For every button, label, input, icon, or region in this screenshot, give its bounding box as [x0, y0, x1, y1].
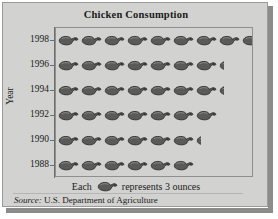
source-label: Source:: [14, 195, 42, 205]
frame-shadow-right: [268, 6, 273, 211]
source-text: U.S. Department of Agriculture: [44, 195, 158, 205]
pictograph-row: [57, 104, 218, 128]
pictograph-row: [57, 129, 202, 153]
chicken-icon: [103, 33, 125, 48]
y-axis-tick-label: 1992: [7, 109, 49, 119]
chicken-icon: [149, 58, 171, 73]
chicken-icon: [57, 33, 79, 48]
legend-prefix: Each: [72, 181, 92, 192]
pictograph-row: [57, 79, 225, 103]
chicken-icon: [218, 58, 224, 73]
y-axis-tick-label: 1990: [7, 134, 49, 144]
chicken-icon: [149, 133, 171, 148]
chicken-icon: [103, 133, 125, 148]
plot-area: [55, 27, 253, 177]
chicken-icon: [172, 158, 194, 173]
chicken-icon: [172, 108, 194, 123]
chicken-icon: [103, 58, 125, 73]
chicken-icon: [80, 158, 102, 173]
chart-frame: Chicken Consumption Year 199819961994199…: [2, 2, 268, 207]
chicken-icon: [57, 133, 79, 148]
chicken-icon: [149, 158, 171, 173]
chicken-icon: [172, 133, 194, 148]
y-axis-tick-label: 1996: [7, 59, 49, 69]
chicken-icon: [80, 33, 102, 48]
source-note: Source: U.S. Department of Agriculture: [14, 195, 158, 205]
chicken-icon: [241, 33, 252, 48]
chicken-icon: [172, 33, 194, 48]
chicken-icon: [57, 108, 79, 123]
source-divider: [13, 193, 243, 194]
chicken-icon: [195, 83, 217, 98]
frame-shadow-bottom: [6, 208, 273, 213]
chicken-icon: [195, 33, 217, 48]
chicken-icon: [126, 133, 148, 148]
chicken-icon: [103, 158, 125, 173]
chicken-icon: [126, 33, 148, 48]
y-axis-tick-label: 1988: [7, 159, 49, 169]
chicken-icon: [126, 58, 148, 73]
pictograph-row: [57, 154, 195, 178]
chicken-icon: [96, 179, 118, 194]
chicken-icon: [195, 108, 217, 123]
chicken-icon: [149, 108, 171, 123]
chicken-icon: [57, 83, 79, 98]
chicken-icon: [195, 133, 201, 148]
chicken-icon: [80, 83, 102, 98]
y-axis-tick-label: 1994: [7, 84, 49, 94]
chicken-icon: [149, 33, 171, 48]
chicken-icon: [126, 158, 148, 173]
chicken-icon: [80, 58, 102, 73]
pictograph-row: [57, 54, 225, 78]
y-axis-tick-label: 1998: [7, 34, 49, 44]
legend-suffix: represents 3 ounces: [122, 181, 200, 192]
chicken-icon: [195, 58, 217, 73]
chicken-icon: [172, 58, 194, 73]
chicken-icon: [80, 108, 102, 123]
chicken-icon: [149, 83, 171, 98]
chicken-icon: [103, 83, 125, 98]
chart-title: Chicken Consumption: [3, 9, 269, 20]
chicken-icon: [57, 158, 79, 173]
chicken-icon: [57, 58, 79, 73]
pictograph-row: [57, 29, 253, 53]
chicken-icon: [80, 133, 102, 148]
chicken-icon: [103, 108, 125, 123]
chicken-icon: [218, 83, 224, 98]
chart-legend: Each represents 3 ounces: [3, 179, 269, 194]
chicken-icon: [172, 83, 194, 98]
chicken-icon: [126, 83, 148, 98]
chicken-icon: [218, 33, 240, 48]
chicken-icon: [126, 108, 148, 123]
